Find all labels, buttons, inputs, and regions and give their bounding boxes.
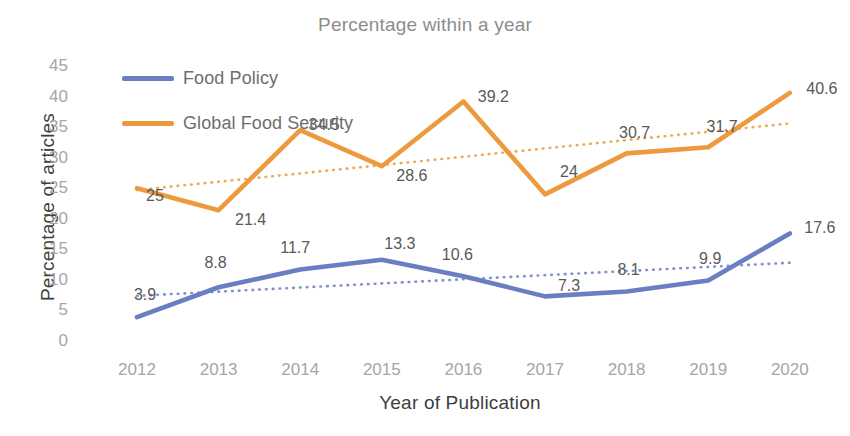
legend-label-food-policy: Food Policy <box>183 68 278 89</box>
data-label-food-policy-2017: 7.3 <box>558 277 580 295</box>
data-label-food-policy-2020: 17.6 <box>804 219 835 237</box>
data-label-food-policy-2019: 9.9 <box>699 250 721 268</box>
data-label-food-policy-2015: 13.3 <box>384 235 415 253</box>
data-label-food-policy-2018: 8.1 <box>617 261 639 279</box>
data-label-global-food-security-2013: 21.4 <box>235 211 266 229</box>
data-label-global-food-security-2012: 25 <box>146 187 164 205</box>
data-label-food-policy-2016: 10.6 <box>442 246 473 264</box>
legend-label-global-food-security: Global Food Security <box>183 113 353 134</box>
trendline-food-policy <box>137 263 790 296</box>
legend-swatch-food-policy <box>122 76 174 81</box>
data-label-food-policy-2014: 11.7 <box>280 239 310 257</box>
series-line-global-food-security[interactable] <box>137 93 790 210</box>
data-label-food-policy-2012: 3.9 <box>134 286 156 304</box>
chart-page: Percentage within a year Percentage of a… <box>0 0 850 436</box>
data-label-global-food-security-2016: 39.2 <box>478 88 509 106</box>
legend-item-global-food-security[interactable]: Global Food Security <box>122 113 353 134</box>
data-label-global-food-security-2015: 28.6 <box>396 167 427 185</box>
data-label-food-policy-2013: 8.8 <box>204 254 226 272</box>
legend-item-food-policy[interactable]: Food Policy <box>122 68 278 89</box>
data-label-global-food-security-2018: 30.7 <box>619 124 650 142</box>
data-label-global-food-security-2017: 24 <box>560 163 578 181</box>
plot-area <box>0 0 850 436</box>
data-label-global-food-security-2019: 31.7 <box>707 118 738 136</box>
data-label-global-food-security-2020: 40.6 <box>806 80 837 98</box>
legend-swatch-global-food-security <box>122 121 174 126</box>
